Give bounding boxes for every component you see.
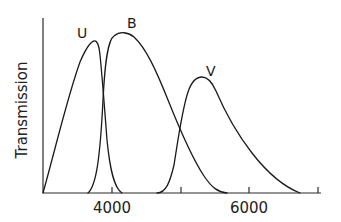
curve-b	[88, 33, 227, 193]
x-tick-label-6000: 6000	[230, 199, 268, 217]
curve-u	[43, 41, 122, 193]
series-label-b: B	[127, 15, 137, 31]
y-axis-label: Transmission	[13, 62, 31, 160]
series-label-v: V	[206, 63, 216, 79]
curve-v	[157, 77, 300, 193]
series-label-u: U	[77, 25, 87, 41]
filter-transmission-chart: 4000 6000 Transmission U B V	[0, 0, 341, 222]
x-tick-label-4000: 4000	[93, 199, 131, 217]
